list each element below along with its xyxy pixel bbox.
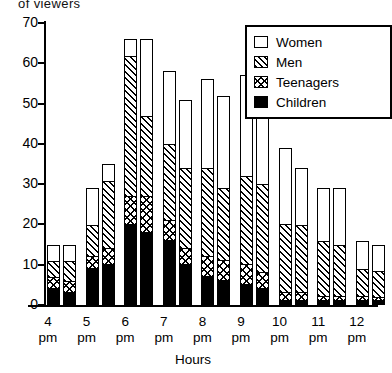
bar-segment-teens — [48, 277, 59, 289]
bar-segment-kids — [280, 300, 291, 304]
bar-segment-men — [357, 269, 368, 296]
bar-segment-men — [202, 168, 213, 256]
bar — [86, 188, 99, 305]
bar-segment-women — [373, 246, 384, 271]
bar-segment-men — [334, 245, 345, 296]
legend-item: Children — [254, 92, 384, 112]
y-axis-tick-label: 70 — [4, 14, 38, 30]
x-axis-title: Hours — [0, 352, 386, 367]
x-axis-group-label: 8pm — [182, 314, 222, 346]
x-axis-meridiem: pm — [182, 330, 222, 346]
bar-segment-teens — [64, 281, 75, 293]
bar-segment-kids — [64, 292, 75, 304]
bar-segment-men — [125, 56, 136, 196]
bar — [179, 100, 192, 305]
x-axis-group-label: 10pm — [260, 314, 300, 346]
x-axis-meridiem: pm — [144, 330, 184, 346]
legend-item: Women — [254, 32, 384, 52]
y-axis-tick-labels: 010203040506070 — [0, 0, 38, 330]
bar-segment-kids — [103, 264, 114, 304]
bar — [140, 39, 153, 305]
x-axis-group-label: 12pm — [337, 314, 377, 346]
bar-segment-teens — [125, 196, 136, 224]
x-axis-meridiem: pm — [105, 330, 145, 346]
bar — [163, 71, 176, 305]
bar-segment-women — [125, 40, 136, 56]
bar-segment-men — [103, 181, 114, 249]
bar-segment-teens — [180, 248, 191, 264]
y-axis-tick-label: 50 — [4, 95, 38, 111]
legend-label: Children — [276, 95, 326, 110]
bar-segment-men — [373, 271, 384, 297]
bar-segment-women — [64, 246, 75, 262]
x-axis-hour: 11 — [298, 314, 338, 330]
x-axis-group-label: 7pm — [144, 314, 184, 346]
bar-segment-kids — [202, 276, 213, 304]
x-axis-hour: 9 — [221, 314, 261, 330]
bar-segment-kids — [218, 280, 229, 304]
x-axis-hour: 8 — [182, 314, 222, 330]
x-axis-line — [28, 305, 378, 307]
legend-item: Teenagers — [254, 72, 384, 92]
bar-segment-teens — [164, 220, 175, 240]
bar-segment-women — [318, 189, 329, 240]
bar-segment-kids — [318, 300, 329, 304]
bar-segment-men — [218, 188, 229, 260]
bar — [102, 164, 115, 305]
bar-segment-men — [180, 168, 191, 248]
y-axis-tick-label: 60 — [4, 54, 38, 70]
bar-segment-women — [218, 97, 229, 189]
bar — [333, 188, 346, 305]
x-axis-group-label: 4pm — [28, 314, 68, 346]
bar-segment-men — [141, 116, 152, 196]
bar-segment-kids — [48, 288, 59, 304]
bar-segment-women — [48, 246, 59, 262]
bar-segment-kids — [180, 264, 191, 304]
x-axis-meridiem: pm — [337, 330, 377, 346]
x-axis-group-label: 11pm — [298, 314, 338, 346]
y-axis-tick-label: 30 — [4, 175, 38, 191]
bar-segment-kids — [164, 240, 175, 304]
legend-label: Teenagers — [276, 75, 339, 90]
bar-segment-kids — [373, 300, 384, 304]
bar-segment-teens — [296, 292, 307, 300]
legend-label: Women — [276, 35, 322, 50]
x-axis-hour: 6 — [105, 314, 145, 330]
x-axis-meridiem: pm — [221, 330, 261, 346]
bar-segment-women — [180, 101, 191, 169]
bar-segment-teens — [241, 264, 252, 284]
bar — [372, 245, 385, 305]
x-axis-group-label: 5pm — [67, 314, 107, 346]
x-axis-hour: 12 — [337, 314, 377, 330]
bar-segment-teens — [280, 292, 291, 300]
bar-segment-men — [48, 261, 59, 277]
bar-segment-kids — [334, 300, 345, 304]
bar-segment-kids — [125, 224, 136, 304]
x-axis-meridiem: pm — [260, 330, 300, 346]
x-axis-hour: 10 — [260, 314, 300, 330]
legend-item: Men — [254, 52, 384, 72]
bar-segment-teens — [257, 272, 268, 288]
legend-swatch-teenagers — [254, 76, 268, 88]
y-axis-tick-label: 10 — [4, 256, 38, 272]
bar-segment-teens — [87, 256, 98, 268]
bar — [279, 148, 292, 305]
bar-segment-women — [280, 149, 291, 225]
x-axis-meridiem: pm — [28, 330, 68, 346]
bar-segment-men — [280, 224, 291, 292]
x-axis-group-label: 6pm — [105, 314, 145, 346]
y-axis-tick-label: 20 — [4, 215, 38, 231]
bar-segment-kids — [87, 268, 98, 304]
bar-segment-teens — [202, 256, 213, 276]
bar-segment-teens — [218, 260, 229, 280]
bar-segment-women — [296, 169, 307, 225]
bar-segment-women — [141, 40, 152, 116]
bar-segment-women — [357, 242, 368, 269]
bar-segment-kids — [141, 232, 152, 304]
legend-swatch-men — [254, 56, 268, 68]
bar-segment-men — [64, 261, 75, 280]
bar — [256, 92, 269, 306]
legend: WomenMenTeenagersChildren — [245, 25, 392, 119]
x-axis-meridiem: pm — [67, 330, 107, 346]
